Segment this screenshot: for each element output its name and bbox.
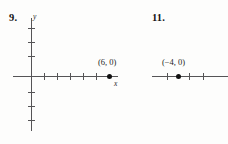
number-line-11	[152, 76, 228, 77]
x-tick-1	[44, 73, 45, 80]
x-axis-9	[13, 76, 118, 77]
x-tick-3	[70, 73, 71, 80]
nl-tick-neg3	[189, 73, 190, 80]
exercise-number-9: 9.	[9, 13, 17, 24]
y-tick-1	[28, 56, 35, 57]
x-axis-label-9: x	[114, 80, 117, 88]
exercise-number-11: 11.	[152, 13, 165, 24]
y-axis-9	[31, 18, 32, 131]
x-tick-4	[83, 73, 84, 80]
y-axis-label-9: y	[33, 13, 36, 21]
y-tick-neg1	[28, 92, 35, 93]
y-tick-3	[28, 28, 35, 29]
plotted-point-9	[107, 74, 112, 79]
nl-tick-neg2	[203, 73, 204, 80]
y-tick-neg2	[28, 106, 35, 107]
y-tick-neg3	[28, 120, 35, 121]
point-label-9: (6, 0)	[98, 58, 116, 67]
y-tick-2	[28, 42, 35, 43]
x-tick-5	[96, 73, 97, 80]
point-label-11: (−4, 0)	[162, 58, 185, 67]
worksheet-page: 9. (6, 0) x y 11. (−4, 0)	[0, 0, 228, 144]
plotted-point-11	[176, 74, 181, 79]
x-tick-2	[57, 73, 58, 80]
nl-tick-neg5	[167, 73, 168, 80]
